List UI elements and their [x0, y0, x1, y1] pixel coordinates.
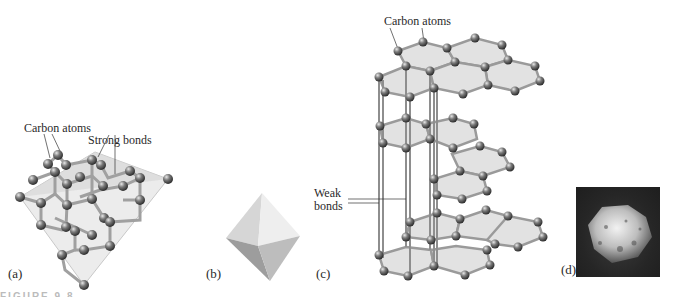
label-weak-bonds-line2: bonds: [314, 199, 343, 214]
graphite-layer-diagram: [310, 0, 570, 297]
figure-caption-fragment: FIGURE 9.8: [0, 291, 74, 297]
panel-label-a: (a): [8, 266, 22, 282]
panel-b-octahedron: (b): [190, 0, 310, 297]
label-carbon-atoms-c: Carbon atoms: [384, 14, 451, 29]
crystal-photo: [576, 187, 660, 277]
panel-label-c: (c): [316, 266, 330, 282]
diamond-lattice-diagram: [0, 0, 200, 297]
panel-label-d: (d): [561, 262, 576, 278]
panel-c-graphite-layers: Carbon atoms Weak bonds (c): [310, 0, 570, 297]
octahedron-shape: [190, 0, 310, 297]
panel-label-b: (b): [206, 266, 221, 282]
label-strong-bonds: Strong bonds: [88, 133, 152, 148]
panel-a-diamond-lattice: Carbon atoms Strong bonds (a): [0, 0, 200, 297]
crystal-rock: [576, 187, 660, 277]
label-carbon-atoms-a: Carbon atoms: [24, 121, 91, 136]
